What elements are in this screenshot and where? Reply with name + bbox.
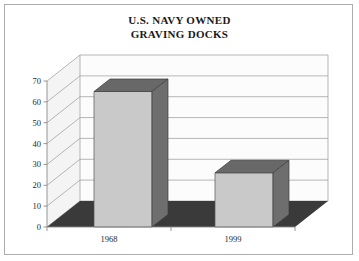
y-tick-label: 0 — [37, 222, 41, 232]
left-side-wall — [47, 55, 80, 227]
y-axis-tick-labels: 0 10 20 30 40 50 60 70 — [33, 76, 42, 232]
bar-group-1968[interactable] — [94, 79, 168, 227]
x-tick-label-1999: 1999 — [225, 234, 242, 244]
x-axis-tick-labels: 1968 1999 — [101, 234, 242, 244]
y-tick-label: 70 — [33, 76, 42, 86]
y-tick-label: 10 — [33, 201, 42, 211]
y-tick-label: 20 — [33, 180, 42, 190]
bar-side-face[interactable] — [152, 79, 168, 227]
y-tick-label: 50 — [33, 118, 42, 128]
chart-page: U.S. NAVY OWNED GRAVING DOCKS — [0, 0, 359, 261]
x-tick-label-1968: 1968 — [101, 234, 118, 244]
x-axis-ticks — [47, 227, 295, 231]
bar-front-face[interactable] — [215, 173, 273, 227]
y-tick-label: 30 — [33, 159, 42, 169]
y-tick-label: 40 — [33, 139, 42, 149]
y-axis-ticks — [44, 81, 48, 227]
bar-chart-svg: 0 10 20 30 40 50 60 70 — [0, 0, 359, 261]
bar-front-face[interactable] — [94, 92, 152, 228]
bar-group-1999[interactable] — [215, 160, 289, 227]
y-tick-label: 60 — [33, 97, 42, 107]
plot-area: 0 10 20 30 40 50 60 70 — [0, 0, 359, 261]
